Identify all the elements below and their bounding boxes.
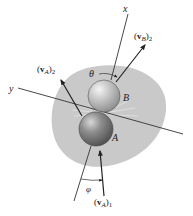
- sphere-b: [88, 80, 120, 112]
- collision-diagram: y x B A θ (vB)2 (vA)2 (vA)1 φ: [0, 0, 193, 216]
- sphere-a: [79, 112, 113, 146]
- x-axis-label: x: [122, 3, 128, 14]
- phi-label: φ: [86, 184, 91, 194]
- va2-label: (vA)2: [37, 64, 56, 76]
- sphere-a-label: A: [111, 132, 119, 143]
- theta-label: θ: [89, 68, 94, 79]
- y-axis-label: y: [8, 83, 14, 94]
- sphere-b-label: B: [123, 92, 129, 103]
- impact-region-blob: [52, 65, 167, 167]
- va1-label: (vA)1: [94, 197, 113, 209]
- vb2-label: (vB)2: [134, 31, 153, 43]
- phi-arc: [81, 179, 102, 180]
